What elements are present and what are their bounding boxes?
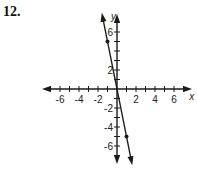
x-tick-label: 6	[171, 94, 177, 105]
x-axis-label: x	[188, 91, 195, 102]
y-axis-label: y	[110, 11, 117, 22]
data-point	[125, 135, 129, 139]
x-tick-label: -4	[75, 94, 84, 105]
y-tick-label: -4	[104, 122, 113, 133]
y-axis-down-arrow-icon	[114, 156, 120, 165]
coordinate-graph: -6-4-224662-2-4-6xy	[0, 0, 197, 172]
y-tick-label: 6	[107, 27, 113, 38]
x-tick-label: -2	[94, 94, 103, 105]
y-tick-label: -6	[104, 141, 113, 152]
y-tick-label: -2	[104, 103, 113, 114]
line-top-arrow-icon	[101, 13, 107, 22]
x-tick-label: 2	[133, 94, 139, 105]
line-bottom-arrow-icon	[128, 156, 134, 165]
x-tick-label: 4	[152, 94, 158, 105]
x-axis-left-arrow-icon	[42, 86, 51, 92]
x-tick-label: -6	[56, 94, 65, 105]
data-point	[106, 40, 110, 44]
